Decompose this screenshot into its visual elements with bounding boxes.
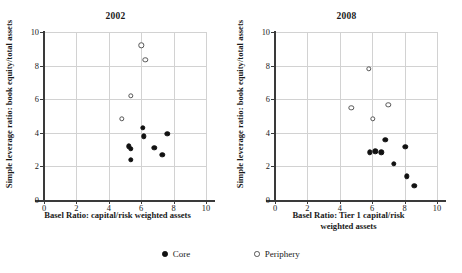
legend-item-core: Core: [162, 249, 190, 259]
y-axis-tick: [271, 32, 275, 33]
data-point-core: [382, 137, 387, 142]
y-axis-line: [274, 31, 276, 200]
data-point-periphery: [119, 116, 124, 121]
chart-title-2002: 2002: [0, 11, 231, 21]
data-point-core: [140, 125, 145, 130]
y-axis-tick: [40, 133, 44, 134]
data-point-core: [403, 144, 408, 149]
y-axis-tick: [40, 99, 44, 100]
y-axis-tick-label: 10: [262, 28, 270, 37]
x-axis-label-line: weighted assets: [320, 221, 376, 231]
y-axis-tick-label: 4: [35, 128, 39, 137]
data-point-periphery: [386, 102, 391, 107]
data-point-periphery: [138, 43, 143, 48]
data-point-core: [404, 174, 409, 179]
y-axis-tick-label: 6: [266, 95, 270, 104]
y-axis-tick-label: 8: [35, 61, 39, 70]
gridline-horizontal: [275, 166, 437, 167]
gridline-horizontal: [44, 166, 206, 167]
gridline-horizontal: [275, 99, 437, 100]
x-axis-label-line: Basel Ratio: Tier 1 capital/risk: [292, 210, 404, 220]
legend-item-periphery: Periphery: [254, 249, 300, 259]
y-axis-tick: [40, 66, 44, 67]
gridline-vertical: [307, 32, 308, 200]
gridline-horizontal: [275, 133, 437, 134]
scatter-figure: 2002 Simple leverage ratio: book equity/…: [0, 0, 462, 273]
gridline-horizontal: [44, 99, 206, 100]
chart-title-2008: 2008: [231, 11, 462, 21]
data-point-periphery: [366, 66, 371, 71]
y-axis-tick: [40, 166, 44, 167]
y-axis-tick: [40, 32, 44, 33]
data-point-core: [164, 131, 169, 136]
y-axis-tick: [271, 66, 275, 67]
data-point-periphery: [348, 105, 353, 110]
gridline-vertical: [109, 32, 110, 200]
data-point-core: [373, 149, 378, 154]
legend-label-core: Core: [173, 249, 191, 259]
data-point-core: [141, 133, 146, 138]
x-axis-label-2008: Basel Ratio: Tier 1 capital/riskweighted…: [241, 210, 456, 232]
y-axis-tick-label: 8: [266, 61, 270, 70]
y-axis-tick: [271, 99, 275, 100]
open-circle-icon: [254, 251, 260, 257]
chart-panel-2008: 2008 Simple leverage ratio: book equity/…: [231, 0, 462, 246]
data-point-core: [128, 157, 133, 162]
data-point-periphery: [370, 116, 375, 121]
y-axis-tick-label: 10: [31, 28, 39, 37]
data-point-core: [151, 145, 156, 150]
panel-row: 2002 Simple leverage ratio: book equity/…: [0, 0, 462, 246]
chart-panel-2002: 2002 Simple leverage ratio: book equity/…: [0, 0, 231, 246]
plot-area-2002: 02468100246810: [44, 32, 206, 200]
data-point-periphery: [128, 93, 133, 98]
y-axis-line: [43, 31, 45, 200]
x-axis-label-2002: Basel Ratio: capital/risk weighted asset…: [10, 210, 225, 221]
gridline-horizontal: [275, 32, 437, 33]
y-axis-tick-label: 0: [266, 196, 270, 205]
plot-area-2008: 02468100246810: [275, 32, 437, 200]
y-axis-tick: [271, 166, 275, 167]
gridline-horizontal: [44, 32, 206, 33]
gridline-vertical: [206, 32, 207, 200]
y-axis-tick-label: 4: [266, 128, 270, 137]
gridline-vertical: [174, 32, 175, 200]
x-axis-line: [266, 200, 446, 202]
gridline-vertical: [437, 32, 438, 200]
y-axis-tick-label: 2: [35, 162, 39, 171]
data-point-core: [378, 149, 383, 154]
gridline-vertical: [76, 32, 77, 200]
data-point-core: [160, 152, 165, 157]
filled-circle-icon: [162, 251, 168, 257]
data-point-core: [128, 146, 133, 151]
y-axis-tick-label: 0: [35, 196, 39, 205]
gridline-horizontal: [44, 66, 206, 67]
gridline-horizontal: [44, 133, 206, 134]
legend-label-periphery: Periphery: [265, 249, 300, 259]
y-axis-tick-label: 6: [35, 95, 39, 104]
x-axis-line: [35, 200, 215, 202]
gridline-vertical: [340, 32, 341, 200]
y-axis-label-2008: Simple leverage ratio: book equity/total…: [235, 0, 247, 208]
data-point-core: [412, 183, 417, 188]
y-axis-label-2002: Simple leverage ratio: book equity/total…: [4, 0, 16, 208]
y-axis-tick-label: 2: [266, 162, 270, 171]
gridline-horizontal: [275, 66, 437, 67]
figure-legend: Core Periphery: [0, 246, 462, 273]
data-point-periphery: [143, 57, 148, 62]
y-axis-tick: [271, 133, 275, 134]
